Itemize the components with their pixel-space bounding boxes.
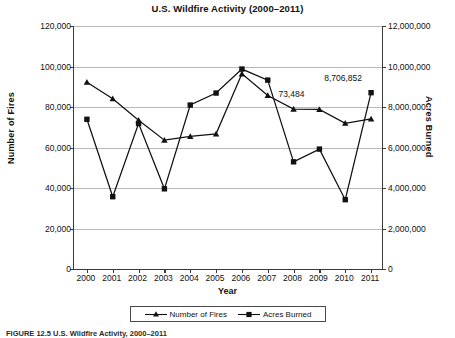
grid-line [74,269,382,270]
square-data-marker [162,186,167,191]
series-line [87,69,371,200]
triangle-marker-icon [145,310,167,319]
y2-axis-tick-label: 6,000,000 [388,143,455,153]
series-layer [74,26,384,269]
data-label: 8,706,852 [324,73,362,83]
chart-legend: Number of Fires Acres Burned [130,306,326,322]
square-data-marker [84,117,89,122]
y-axis-tick-label: 100,000 [5,62,71,72]
y2-axis-tick-label: 10,000,000 [388,62,455,72]
legend-label: Number of Fires [170,310,227,319]
y-axis-tick-label: 0 [5,264,71,274]
legend-label: Acres Burned [263,310,311,319]
plot-area [73,26,383,269]
square-data-marker [239,66,244,71]
legend-item-number-of-fires: Number of Fires [145,310,227,319]
square-data-marker [188,102,193,107]
series-line [87,74,371,140]
y-axis-tick-label: 20,000 [5,224,71,234]
square-data-marker [110,194,115,199]
square-marker-icon [238,310,260,319]
y2-axis-tick-label: 2,000,000 [388,224,455,234]
y-axis-tick-label: 60,000 [5,143,71,153]
legend-item-acres-burned: Acres Burned [238,310,311,319]
square-data-marker [265,77,270,82]
x-axis-title: Year [0,286,455,296]
y2-axis-tick-label: 4,000,000 [388,183,455,193]
x-axis-tick-label: 2011 [350,273,390,283]
triangle-data-marker [110,96,116,102]
square-data-marker [213,90,218,95]
figure-caption: FIGURE 12.5 U.S. Wildfire Activity, 2000… [6,329,306,338]
square-data-marker [343,197,348,202]
y-axis-tick-label: 80,000 [5,102,71,112]
y2-axis-tick-label: 8,000,000 [388,102,455,112]
triangle-data-marker [368,116,374,122]
data-label: 73,484 [278,89,304,99]
square-data-marker [136,121,141,126]
y-axis-tick-label: 40,000 [5,183,71,193]
square-data-marker [291,159,296,164]
triangle-data-marker [84,79,90,85]
chart-title: U.S. Wildfire Activity (2000–2011) [0,3,455,14]
y2-axis-tick [382,269,386,270]
y2-axis-tick-label: 0 [388,264,455,274]
y2-axis-tick-label: 12,000,000 [388,21,455,31]
square-data-marker [317,146,322,151]
square-data-marker [368,90,373,95]
y-axis-tick-label: 120,000 [5,21,71,31]
